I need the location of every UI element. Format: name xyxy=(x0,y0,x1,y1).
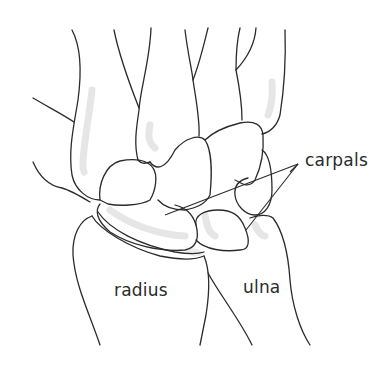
radius-label: radius xyxy=(114,282,168,299)
bone-shading xyxy=(83,82,273,256)
ulna-label: ulna xyxy=(243,279,281,296)
radius-bone xyxy=(73,212,209,345)
carpals-label: carpals xyxy=(305,152,368,169)
carpal-bones xyxy=(97,122,272,251)
wrist-anatomy-diagram xyxy=(0,0,392,366)
metacarpals xyxy=(33,28,285,202)
carpals-leader-lines xyxy=(165,164,298,230)
